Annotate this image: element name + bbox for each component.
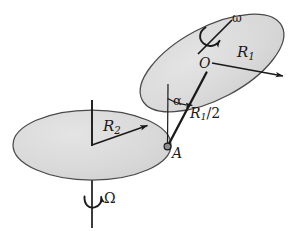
physics-diagram: R2 R1 R1/2 O A α ω Ω: [0, 0, 295, 231]
label-point-A: A: [172, 146, 182, 160]
label-spin-omega: ω: [232, 12, 242, 24]
precession-curved-arrow: [84, 197, 101, 208]
contact-point-marker: [164, 143, 171, 150]
vertical-reference-line: [168, 84, 169, 147]
label-center-O: O: [199, 56, 210, 70]
label-rod-length: R1/2: [190, 106, 220, 122]
label-tilt-angle-alpha: α: [173, 94, 182, 107]
label-R1: R1: [237, 45, 255, 62]
diagram-canvas: [0, 0, 295, 231]
label-precession-omega: Ω: [104, 191, 116, 205]
label-R2: R2: [103, 119, 121, 136]
